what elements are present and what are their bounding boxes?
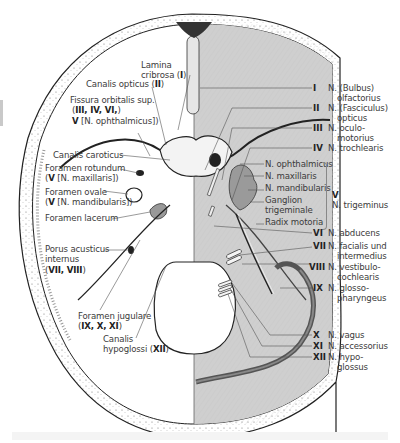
label-canalis-hypoglossi: Canalis hypoglossi (XII) — [103, 334, 169, 355]
numeral-xii: XII — [313, 352, 326, 362]
label-n-oculomotorius: N. oculo-motorius — [328, 123, 374, 144]
numeral-x: X — [313, 330, 320, 340]
label-foramen-jugulare: Foramen jugulare (IX, X, XI) — [78, 311, 151, 332]
numeral-ii: II — [313, 103, 319, 113]
label-foramen-lacerum: Foramen lacerum — [45, 213, 118, 223]
label-foramen-rotundum: Foramen rotundum (V [N. maxillaris]) — [45, 163, 125, 184]
label-canalis-opticus: Canalis opticus (II) — [86, 79, 164, 89]
numeral-iii: III — [313, 123, 323, 133]
label-n-facialis: N. facialis undintermedius — [328, 241, 387, 262]
label-n-vagus: N. vagus — [328, 330, 364, 340]
numeral-vi: VI — [313, 228, 323, 238]
page-bottom-strip — [12, 432, 388, 440]
label-n-trochlearis: N. trochlearis — [328, 143, 383, 153]
porus-acusticus — [128, 246, 134, 254]
label-n-vestibulocochlearis: N. vestibulo-cochlearis — [328, 262, 380, 283]
label-n-opticus: N. (Fasciculus)opticus — [328, 103, 388, 124]
numeral-viii: VIII — [309, 262, 325, 272]
label-n-olfactorius: N. (Bulbus)olfactorius — [328, 83, 380, 104]
numeral-xi: XI — [313, 341, 323, 351]
label-n-glossopharyngeus: N. glosso-pharyngeus — [328, 283, 386, 304]
numeral-v: V — [332, 190, 339, 200]
label-n-trigeminus: N. trigeminus — [332, 200, 388, 210]
label-porus-acusticus: Porus acusticus internus (VII, VIII) — [45, 244, 109, 275]
label-fissura-orbitalis: Fissura orbitalis sup. (III, IV, VI,) V … — [70, 95, 158, 126]
numeral-ix: IX — [313, 283, 323, 293]
label-n-abducens: N. abducens — [328, 228, 380, 238]
label-canalis-caroticus: Canalis caroticus — [53, 150, 123, 160]
numeral-i: I — [313, 83, 316, 93]
label-lamina-cribrosa: Lamina cribrosa (I) — [141, 60, 186, 81]
numeral-iv: IV — [313, 143, 323, 153]
trigeminus-bracket — [322, 162, 327, 230]
cranial-base-figure: Lamina cribrosa (I) Canalis opticus (II)… — [0, 0, 400, 443]
lamina-cribrosa — [187, 36, 199, 114]
numeral-vii: VII — [313, 241, 326, 251]
label-n-accessorius: N. accessorius — [328, 341, 388, 351]
page-edge-tab — [0, 100, 3, 126]
label-n-hypoglossus: N. hypo-glossus — [328, 352, 368, 373]
label-foramen-ovale: Foramen ovale (V [N. mandibularis]) — [45, 187, 132, 208]
